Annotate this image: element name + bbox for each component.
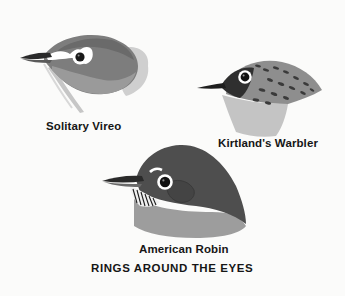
- american-robin-head: [102, 145, 246, 238]
- solitary-vireo-label: Solitary Vireo: [46, 120, 121, 132]
- figure-caption: RINGS AROUND THE EYES: [91, 262, 253, 274]
- kirtlands-warbler-label: Kirtland's Warbler: [218, 137, 318, 149]
- american-robin-label: American Robin: [139, 243, 229, 255]
